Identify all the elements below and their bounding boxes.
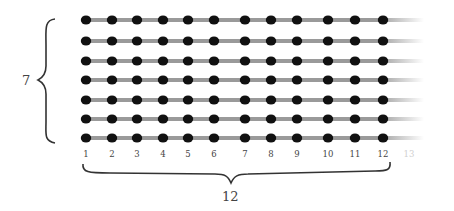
column-number: 2 [109,149,114,159]
column-number: 5 [185,149,190,159]
grid-dot [158,114,168,123]
grid-dot [266,56,276,65]
grid-dot [107,56,117,65]
column-numbers: 12345678910111213 [83,149,414,159]
column-number: 6 [211,149,216,159]
faded-column-number: 13 [404,149,415,159]
grid-dot [378,114,388,123]
grid-dot [323,133,333,142]
grid-dot [323,36,333,45]
grid-dot [323,114,333,123]
grid-dot [81,133,91,142]
grid-dot [132,95,142,104]
grid-dot [350,133,360,142]
grid-dot [107,114,117,123]
grid-dot [132,114,142,123]
grid-dot [323,15,333,24]
bottom-brace [83,162,390,183]
column-number: 9 [294,149,299,159]
grid-dot [81,56,91,65]
grid-dot [81,95,91,104]
grid-dot [240,114,250,123]
grid-dot [158,56,168,65]
grid-dot [183,114,193,123]
grid-dot [350,15,360,24]
grid-dot [107,15,117,24]
grid-dot [183,133,193,142]
column-number: 12 [378,149,389,159]
grid-dot [323,95,333,104]
grid-dot [378,36,388,45]
grid-dot [240,56,250,65]
grid-dot [350,36,360,45]
grid-dot [292,36,302,45]
grid-dot [378,75,388,84]
grid-dot [81,36,91,45]
grid-dot [292,95,302,104]
grid-dot [158,75,168,84]
grid-dot [183,75,193,84]
grid-dot [158,36,168,45]
grid-dot [350,75,360,84]
grid-dot [107,95,117,104]
column-number: 7 [242,149,247,159]
grid-dot [240,133,250,142]
dot-grid-diagram: 12345678910111213 7 12 [0,0,454,211]
grid-dot [378,133,388,142]
grid-dot [209,75,219,84]
grid-dot [292,133,302,142]
column-number: 11 [350,149,361,159]
grid-dot [292,75,302,84]
grid-dot [292,56,302,65]
grid-dot [183,95,193,104]
grid-dot [266,133,276,142]
grid-dot [378,15,388,24]
left-brace [38,19,55,143]
grid-dot [81,114,91,123]
grid-dot [240,15,250,24]
grid-dot [183,56,193,65]
grid-dot [209,56,219,65]
grid-dot [323,75,333,84]
grid-dot [209,36,219,45]
grid-dot [350,114,360,123]
grid-dot [132,75,142,84]
grid-dot [81,15,91,24]
grid-dot [240,36,250,45]
grid-dot [132,133,142,142]
grid-dot [107,75,117,84]
grid-dot [266,15,276,24]
grid-dot [292,114,302,123]
column-number: 8 [268,149,273,159]
grid-dot [183,15,193,24]
grid-dot [132,15,142,24]
grid-dot [209,114,219,123]
grid-dot [292,15,302,24]
grid-dot [158,15,168,24]
column-number: 1 [83,149,88,159]
row-count-label: 7 [22,73,30,88]
grid-dot [378,56,388,65]
grid-dot [132,56,142,65]
grid-dot [240,95,250,104]
grid-dot [209,95,219,104]
grid-dot [107,133,117,142]
grid-dot [378,95,388,104]
grid-dot [81,75,91,84]
grid-dot [323,56,333,65]
grid-dot [266,36,276,45]
grid-dot [158,133,168,142]
grid-dot [158,95,168,104]
grid-dot [266,75,276,84]
column-number: 10 [323,149,334,159]
grid-dot [350,95,360,104]
grid-dot [209,133,219,142]
column-number: 3 [134,149,139,159]
column-number: 4 [160,149,165,159]
grid-dot [209,15,219,24]
grid-dot [240,75,250,84]
grid-dot [350,56,360,65]
grid-dot [183,36,193,45]
grid-dot [266,95,276,104]
column-count-label: 12 [222,189,239,204]
